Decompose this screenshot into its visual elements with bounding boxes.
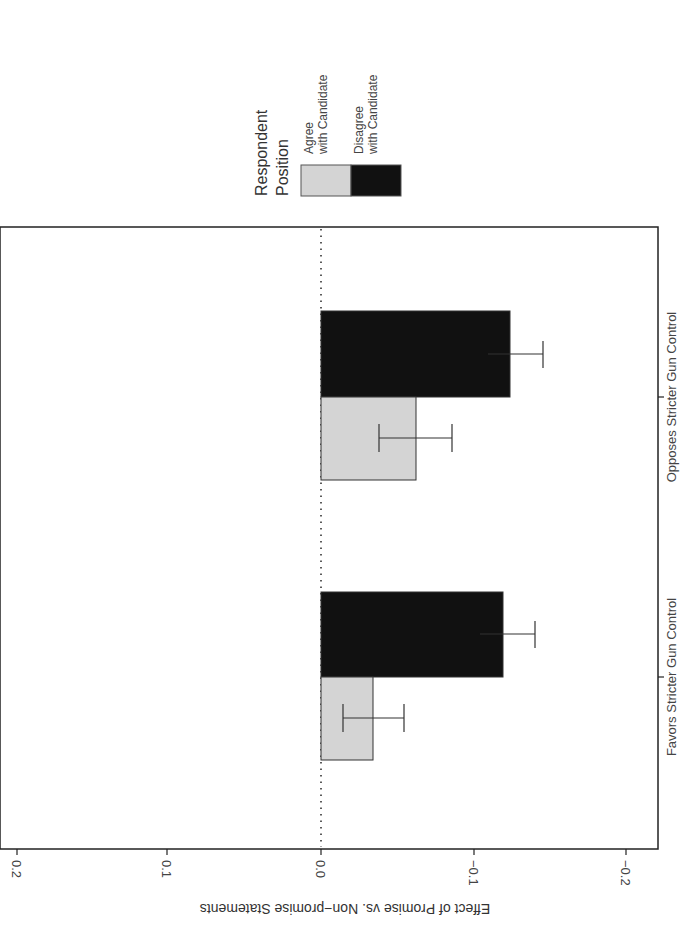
legend-title-line2: Position bbox=[274, 139, 291, 196]
tick-label-neg-0.1: −0.1 bbox=[466, 860, 481, 886]
bar-favors-disagree bbox=[321, 592, 503, 677]
tick-label-0.0: 0.0 bbox=[313, 860, 328, 878]
bar-opposes-disagree bbox=[321, 311, 510, 397]
tick-label-neg-0.2: −0.2 bbox=[618, 860, 633, 886]
group-favors bbox=[321, 592, 535, 760]
legend-label-disagree-line1: Disagree bbox=[352, 106, 366, 154]
tick-label-0.1: 0.1 bbox=[159, 860, 174, 878]
category-label-favors: Favors Stricter Gun Control bbox=[664, 598, 679, 756]
legend-label-agree-line1: Agree bbox=[302, 122, 316, 154]
legend-label-agree-line2: with Candidate bbox=[316, 74, 330, 155]
value-axis bbox=[17, 849, 626, 855]
category-label-opposes: Opposes Stricter Gun Control bbox=[664, 312, 679, 483]
value-axis-title: Effect of Promise vs. Non−promise Statem… bbox=[200, 901, 490, 917]
legend-label-disagree-line2: with Candidate bbox=[366, 74, 380, 155]
group-opposes bbox=[321, 311, 543, 480]
legend-swatch-disagree bbox=[351, 165, 401, 196]
legend: Respondent Position Agree with Candidate… bbox=[253, 74, 401, 196]
legend-title-line1: Respondent bbox=[253, 109, 270, 196]
bar-chart: 0.2 0.1 0.0 −0.1 −0.2 Effect of Promise … bbox=[0, 0, 691, 936]
tick-label-0.2: 0.2 bbox=[9, 860, 24, 878]
legend-swatch-agree bbox=[301, 165, 351, 196]
